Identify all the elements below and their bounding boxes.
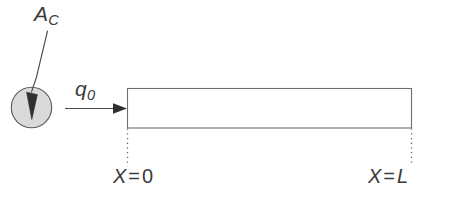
right-boundary-label: X=L bbox=[368, 166, 408, 186]
left-boundary-value: 0 bbox=[142, 165, 153, 187]
area-label-subscript: C bbox=[48, 12, 59, 28]
area-leader-line bbox=[32, 31, 48, 92]
area-label-symbol: A bbox=[34, 2, 48, 25]
figure-root: AC q0 X=0 X=L bbox=[0, 0, 450, 203]
area-label: AC bbox=[34, 3, 59, 24]
flux-label: q0 bbox=[75, 78, 95, 99]
right-boundary-value: L bbox=[397, 165, 408, 187]
right-boundary-symbol: X bbox=[368, 165, 381, 187]
flux-label-symbol: q bbox=[75, 77, 87, 100]
right-boundary-operator: = bbox=[381, 165, 397, 187]
flux-label-subscript: 0 bbox=[87, 87, 95, 103]
left-boundary-symbol: X bbox=[113, 165, 126, 187]
bar-rectangle bbox=[128, 89, 412, 129]
flux-arrowhead bbox=[113, 103, 127, 113]
left-boundary-operator: = bbox=[126, 165, 142, 187]
left-boundary-label: X=0 bbox=[113, 166, 153, 186]
